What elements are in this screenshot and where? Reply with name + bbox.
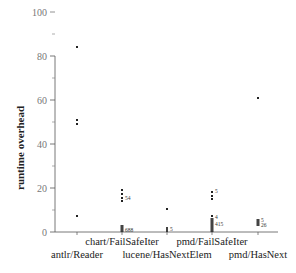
x-category-labels: chart/FailSafeIter pmd/FailSafeIter antl… — [51, 236, 287, 260]
annotation-pmdfsi-5: 5 — [215, 188, 218, 194]
annotation-pmdfsi-4: 4 — [215, 214, 218, 220]
annotation-chart-688: 688 — [125, 227, 134, 233]
y-tick-20: 20 — [37, 183, 47, 194]
x-ticks — [77, 232, 258, 235]
x-label-lucene-hasnextelem: lucene/HasNextElem — [122, 249, 211, 260]
x-label-chart-failsafeiter: chart/FailSafeIter — [85, 236, 159, 247]
y-tick-60: 60 — [37, 95, 47, 106]
annotation-pmdfsi-415: 415 — [215, 221, 224, 227]
series-pmd-failsafeiter — [211, 191, 214, 232]
y-ticks — [50, 12, 55, 232]
annotation-lucene-5: 5 — [170, 226, 173, 232]
annotation-pmdhn-26: 26 — [261, 222, 267, 228]
y-tick-40: 40 — [37, 139, 47, 150]
series-chart-failsafeiter — [121, 189, 124, 232]
series-antlr-reader — [76, 46, 78, 217]
y-tick-labels: 0 20 40 60 80 100 — [32, 7, 47, 238]
y-tick-100: 100 — [32, 7, 47, 18]
x-label-pmd-failsafeiter: pmd/FailSafeIter — [176, 236, 248, 247]
y-axis-label: runtime overhead — [14, 106, 26, 190]
scatter-chart: 0 20 40 60 80 100 runtime overhead 54 68… — [0, 0, 296, 273]
x-label-pmd-hasnext: pmd/HasNext — [229, 249, 287, 260]
series-lucene-hasnextelem — [166, 208, 168, 232]
y-tick-80: 80 — [37, 51, 47, 62]
annotation-chart-54: 54 — [125, 195, 131, 201]
x-label-antlr-reader: antlr/Reader — [51, 249, 103, 260]
y-tick-0: 0 — [42, 227, 47, 238]
series-pmd-hasnext — [257, 97, 260, 226]
